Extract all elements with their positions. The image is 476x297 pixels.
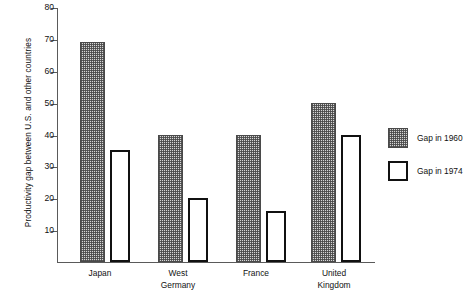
plot-area: 80 70 60 50 40 30 20 10 (57, 8, 375, 263)
bar-west-germany-1974 (188, 198, 208, 262)
legend-swatch-icon (388, 128, 408, 148)
category-label-united-kingdom: United Kingdom (301, 268, 367, 291)
bar-japan-1960 (80, 42, 105, 262)
bar-france-1960 (236, 135, 261, 263)
category-label-france: France (226, 268, 286, 280)
y-tick-label: 10 (44, 225, 54, 236)
y-tick-label: 20 (44, 193, 54, 204)
legend: Gap in 1960 Gap in 1974 (388, 128, 474, 194)
category-label-west-germany: West Germany (148, 268, 208, 291)
bar-japan-1974 (110, 150, 130, 262)
bar-west-germany-1960 (158, 135, 183, 263)
bar-france-1974 (266, 211, 286, 262)
bars-layer (58, 8, 375, 262)
y-tick-label: 40 (44, 130, 54, 141)
bar-chart: Productivity gap between U.S. and other … (0, 0, 476, 297)
category-label-japan: Japan (70, 268, 130, 280)
legend-item-gap-1974: Gap in 1974 (388, 161, 474, 181)
legend-label: Gap in 1974 (417, 166, 463, 176)
legend-item-gap-1960: Gap in 1960 (388, 128, 474, 148)
y-tick-label: 50 (44, 98, 54, 109)
bar-united-kingdom-1960 (311, 103, 336, 262)
bar-united-kingdom-1974 (341, 135, 361, 263)
y-tick-label: 30 (44, 161, 54, 172)
y-tick-label: 70 (44, 34, 54, 45)
y-tick-label: 80 (44, 2, 54, 13)
legend-swatch-icon (388, 161, 408, 181)
legend-label: Gap in 1960 (417, 133, 463, 143)
y-tick-label: 60 (44, 66, 54, 77)
y-axis-title: Productivity gap between U.S. and other … (24, 13, 33, 253)
